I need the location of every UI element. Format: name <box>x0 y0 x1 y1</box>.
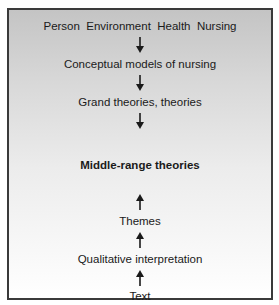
arrow-down-icon <box>135 113 145 129</box>
metaparadigm-concepts: Person Environment Health Nursing <box>9 19 271 33</box>
level-grand-theories: Grand theories, theories <box>9 95 271 109</box>
arrow-up-icon <box>135 232 145 248</box>
arrow-up-icon <box>135 270 145 286</box>
arrow-down-icon <box>135 37 145 53</box>
arrow-up-icon <box>135 194 145 210</box>
level-middle-range-theories: Middle-range theories <box>9 158 271 172</box>
diagram-frame: Person Environment Health Nursing Concep… <box>7 8 273 300</box>
arrow-down-icon <box>135 75 145 91</box>
level-qualitative-interpretation: Qualitative interpretation <box>9 252 271 266</box>
level-conceptual-models: Conceptual models of nursing <box>9 57 271 71</box>
level-themes: Themes <box>9 214 271 228</box>
level-text: Text <box>9 289 271 303</box>
